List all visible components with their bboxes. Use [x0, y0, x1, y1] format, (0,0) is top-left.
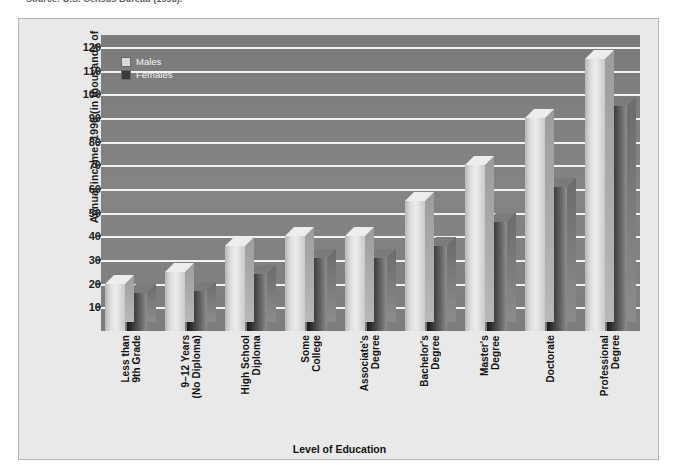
- bar-males: [585, 59, 605, 331]
- bar-side-face: [545, 109, 554, 322]
- bar-side-face: [245, 237, 254, 322]
- bar-front-face: [345, 236, 365, 331]
- x-axis-category-labels: Less than 9th Grade9–12 Years (No Diplom…: [101, 335, 640, 439]
- bar-side-face: [425, 192, 434, 322]
- bar-side-face: [627, 97, 636, 322]
- bar-side-face: [365, 227, 374, 322]
- x-axis-label: Master's Degree: [460, 335, 520, 439]
- source-caption: Source: U.S. Census Bureau (1998).: [26, 0, 182, 4]
- bar-males: [465, 165, 485, 331]
- bar-side-face: [267, 265, 276, 322]
- x-axis-label: High School Diploma: [221, 335, 281, 439]
- bar-males: [345, 236, 365, 331]
- x-axis-label-text: Doctorate: [545, 335, 556, 383]
- legend-label-females: Females: [136, 68, 172, 81]
- bar-males: [285, 236, 305, 331]
- bar-males: [165, 272, 185, 331]
- x-axis-label: Some College: [281, 335, 341, 439]
- bar-side-face: [605, 50, 614, 322]
- bar-front-face: [525, 118, 545, 331]
- x-axis-label: Doctorate: [520, 335, 580, 439]
- x-axis-label: Bachelor's Degree: [400, 335, 460, 439]
- bar-side-face: [447, 237, 456, 322]
- bar-side-face: [507, 213, 516, 322]
- bar-front-face: [165, 272, 185, 331]
- bar-group: [225, 35, 276, 331]
- x-axis-label-text: 9–12 Years (No Diploma): [180, 335, 202, 398]
- bar-side-face: [305, 227, 314, 322]
- bar-front-face: [285, 236, 305, 331]
- bar-group: [405, 35, 456, 331]
- x-axis-label-text: Master's Degree: [479, 335, 501, 376]
- bar-males: [225, 246, 245, 331]
- males-swatch-icon: [121, 57, 131, 67]
- x-axis-label-text: High School Diploma: [240, 335, 262, 394]
- legend: Males Females: [121, 55, 172, 81]
- females-swatch-icon: [121, 70, 131, 80]
- y-axis-ticks: 102030405060708090100110120: [59, 35, 101, 331]
- bar-front-face: [405, 201, 425, 331]
- bar-side-face: [485, 156, 494, 322]
- bar-males: [105, 284, 125, 331]
- bar-side-face: [327, 249, 336, 322]
- x-axis-label-text: Professional Degree: [599, 335, 621, 396]
- bar-side-face: [567, 178, 576, 322]
- x-axis-label: Associate's Degree: [341, 335, 401, 439]
- bar-group: [465, 35, 516, 331]
- x-axis-label-text: Less than 9th Grade: [120, 335, 142, 383]
- bar-males: [405, 201, 425, 331]
- x-axis-title: Level of Education: [19, 443, 660, 455]
- plot-area: Males Females: [101, 35, 640, 331]
- x-axis-label-text: Associate's Degree: [359, 335, 381, 391]
- legend-label-males: Males: [136, 55, 161, 68]
- bar-group: [345, 35, 396, 331]
- bar-side-face: [387, 249, 396, 322]
- x-axis-label: Professional Degree: [580, 335, 640, 439]
- legend-item-females: Females: [121, 68, 172, 81]
- bar-group: [585, 35, 636, 331]
- chart-figure-panel: Annual income, 1996 (in thousands of dol…: [18, 18, 659, 460]
- legend-item-males: Males: [121, 55, 172, 68]
- bar-group: [165, 35, 216, 331]
- x-axis-label-text: Some College: [300, 335, 322, 372]
- x-axis-label-text: Bachelor's Degree: [419, 335, 441, 387]
- bar-side-face: [185, 263, 194, 322]
- bar-front-face: [225, 246, 245, 331]
- x-axis-label: Less than 9th Grade: [101, 335, 161, 439]
- bar-group: [525, 35, 576, 331]
- bar-front-face: [105, 284, 125, 331]
- bar-front-face: [585, 59, 605, 331]
- x-axis-label: 9–12 Years (No Diploma): [161, 335, 221, 439]
- bar-males: [525, 118, 545, 331]
- bar-group: [285, 35, 336, 331]
- bar-front-face: [465, 165, 485, 331]
